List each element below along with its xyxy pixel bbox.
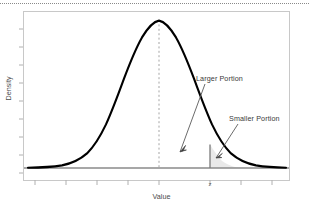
y-axis-label: Density — [4, 59, 13, 119]
smaller-portion-arrow — [216, 124, 238, 158]
x-tick-label-z: z — [203, 181, 217, 187]
plot-frame — [24, 12, 290, 181]
x-axis-label: Value — [0, 192, 309, 201]
plot-canvas — [0, 0, 309, 208]
x-axis-label-text: Value — [153, 192, 171, 201]
larger-portion-arrow — [180, 84, 205, 152]
density-plot-figure: Larger Portion Smaller Portion z Value D… — [0, 0, 309, 208]
shaded-tail-region — [210, 145, 251, 168]
normal-density-curve — [28, 21, 286, 168]
annotation-larger-portion: Larger Portion — [196, 74, 243, 83]
annotation-smaller-portion: Smaller Portion — [229, 114, 280, 123]
y-axis-ticks — [19, 29, 23, 173]
